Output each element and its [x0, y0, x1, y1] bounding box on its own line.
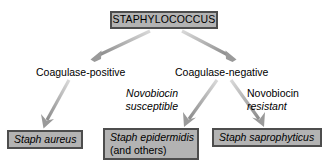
- node-staphylococcus-label: STAPHYLOCOCCUS: [113, 13, 216, 25]
- node-staph-epidermidis-sublabel: (and others): [110, 144, 167, 156]
- label-novobiocin-resistant-line2: resistant: [247, 100, 327, 113]
- arrow-coagulase-positive-to-aureus: [41, 80, 69, 129]
- label-novobiocin-susceptible-line2: susceptible: [90, 100, 178, 113]
- node-staph-aureus: Staph aureus: [7, 130, 83, 149]
- label-coagulase-positive: Coagulase-positive: [36, 66, 125, 79]
- arrow-root-to-coagulase-negative: [182, 31, 237, 62]
- label-novobiocin-resistant: Novobiocin resistant: [247, 87, 327, 113]
- node-staph-saprophyticus-label: Staph saprophyticus: [219, 131, 314, 143]
- label-novobiocin-susceptible: Novobiocin susceptible: [90, 87, 178, 113]
- node-staph-aureus-label: Staph aureus: [14, 133, 76, 145]
- node-staph-saprophyticus: Staph saprophyticus: [212, 128, 322, 147]
- node-staph-epidermidis: Staph epidermidis (and others): [103, 128, 199, 160]
- node-staph-epidermidis-label: Staph epidermidis: [110, 131, 194, 143]
- label-novobiocin-susceptible-line1: Novobiocin: [90, 87, 178, 100]
- arrow-root-to-coagulase-positive: [91, 31, 151, 62]
- node-staphylococcus: STAPHYLOCOCCUS: [110, 11, 218, 29]
- arrow-coagulase-negative-to-epidermidis: [183, 80, 217, 127]
- staphylococcus-flowchart: STAPHYLOCOCCUS Coagulase-positive Coagul…: [0, 0, 330, 163]
- label-coagulase-negative: Coagulase-negative: [175, 66, 268, 79]
- label-novobiocin-resistant-line1: Novobiocin: [247, 87, 327, 100]
